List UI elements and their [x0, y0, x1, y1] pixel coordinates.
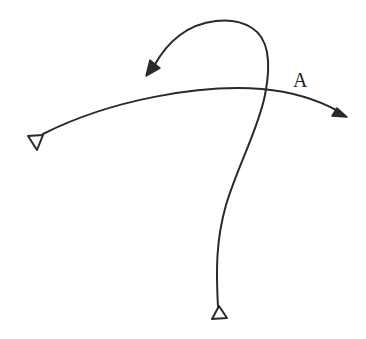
horizontal-arc-path	[43, 88, 338, 134]
loop-arrowhead-icon	[146, 60, 160, 76]
label-a: A	[293, 69, 308, 91]
looping-curve-path	[154, 21, 268, 307]
left-station-triangle-icon	[28, 135, 43, 150]
diagram-svg: A	[0, 0, 366, 339]
bottom-station-triangle-icon	[212, 306, 227, 319]
diagram-canvas: A	[0, 0, 366, 339]
